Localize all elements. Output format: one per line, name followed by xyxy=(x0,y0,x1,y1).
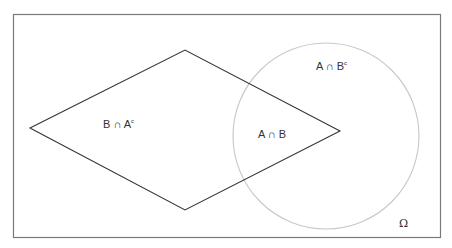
venn-diagram: B ∩ Ac A ∩ B A ∩ Bc Ω xyxy=(0,0,452,248)
label-omega: Ω xyxy=(399,217,408,230)
label-a-intersect-b: A ∩ B xyxy=(258,128,286,140)
universe-rectangle xyxy=(14,15,441,238)
label-b-intersect-a-complement: B ∩ Ac xyxy=(103,118,134,130)
label-a-intersect-b-complement: A ∩ Bc xyxy=(316,60,347,72)
